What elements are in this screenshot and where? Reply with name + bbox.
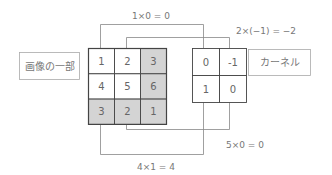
- convolution-diagram: 画像の一部 123456321 0-110 カーネル 1×0 = 0 2×(−1…: [0, 0, 332, 175]
- product-label-4: 4×1 = 4: [137, 162, 175, 172]
- kernel-label: カーネル: [260, 57, 300, 68]
- image-patch-label-box: 画像の一部: [20, 53, 80, 80]
- image-cell-value: 3: [98, 106, 104, 117]
- image-cell-value: 2: [124, 56, 130, 67]
- image-cell-value: 2: [124, 106, 130, 117]
- image-cell-value: 5: [124, 81, 130, 92]
- kernel-cell-value: 0: [203, 57, 209, 68]
- image-cell-value: 1: [150, 106, 156, 117]
- image-cell-value: 6: [150, 81, 156, 92]
- image-cell-value: 4: [98, 81, 104, 92]
- product-label-1: 1×0 = 0: [132, 11, 170, 21]
- kernel-cell-value: -1: [228, 57, 238, 68]
- product-label-2: 2×(−1) = −2: [236, 26, 296, 36]
- product-label-3: 5×0 = 0: [226, 140, 264, 150]
- kernel-grid: 0-110: [193, 49, 247, 103]
- kernel-cell-value: 1: [203, 84, 209, 95]
- image-cell-value: 1: [98, 56, 104, 67]
- image-patch-label: 画像の一部: [25, 60, 75, 72]
- kernel-cell-value: 0: [230, 84, 236, 95]
- image-patch-grid: 123456321: [89, 49, 167, 125]
- kernel-label-box: カーネル: [249, 50, 311, 76]
- image-cell-value: 3: [150, 56, 156, 67]
